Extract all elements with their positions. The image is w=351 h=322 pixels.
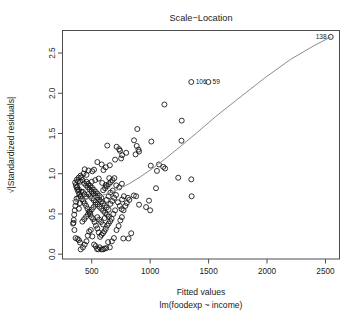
chart-canvas: Scale−Location 5001000150020002500 0.00.… (0, 0, 351, 322)
x-axis-ticks: 5001000150020002500 (85, 259, 335, 276)
data-point (162, 102, 167, 107)
data-point (113, 157, 118, 162)
data-point (84, 172, 89, 177)
y-tick-label: 1.5 (48, 127, 57, 139)
data-point (107, 245, 112, 250)
point-annotations-layer: 13810659 (196, 33, 327, 85)
data-point (135, 127, 140, 132)
data-point (179, 138, 184, 143)
x-tick-label: 1500 (199, 267, 218, 276)
x-tick-label: 500 (85, 267, 99, 276)
y-tick-label: 0.0 (48, 248, 57, 260)
data-point (144, 205, 149, 210)
scale-location-plot: Scale−Location 5001000150020002500 0.00.… (0, 0, 351, 322)
y-tick-label: 2.5 (48, 47, 57, 59)
y-axis-ticks: 0.00.51.01.52.02.5 (48, 47, 63, 260)
data-point (154, 168, 159, 173)
y-tick-label: 1.0 (48, 168, 57, 180)
data-point (119, 181, 124, 186)
y-axis-label: √|Standardized residuals| (6, 97, 16, 194)
chart-title: Scale−Location (169, 13, 232, 23)
data-point (137, 202, 142, 207)
data-point (72, 228, 77, 233)
point-label: 106 (196, 78, 207, 85)
point-label: 138 (316, 33, 327, 40)
data-point (132, 138, 137, 143)
data-point (126, 236, 131, 241)
data-point (133, 152, 138, 157)
data-points-layer (71, 34, 334, 251)
data-point (121, 236, 126, 241)
data-point (149, 139, 154, 144)
x-axis-sublabel: lm(foodexp ~ income) (160, 300, 243, 310)
x-axis-label: Fitted values (177, 287, 226, 297)
data-point (116, 224, 121, 229)
data-point (148, 163, 153, 168)
data-point (95, 160, 100, 165)
plot-frame (63, 31, 340, 260)
data-point (189, 177, 194, 182)
data-point (146, 198, 151, 203)
x-tick-label: 2000 (258, 267, 277, 276)
data-point (154, 186, 159, 191)
data-point (105, 143, 110, 148)
data-point (129, 231, 134, 236)
data-point (176, 175, 181, 180)
point-label: 59 (213, 78, 221, 85)
x-tick-label: 1000 (141, 267, 160, 276)
data-point (189, 79, 194, 84)
y-tick-label: 0.5 (48, 208, 57, 220)
data-point (189, 194, 194, 199)
x-tick-label: 2500 (316, 267, 335, 276)
data-point (179, 118, 184, 123)
data-point (119, 156, 124, 161)
y-tick-label: 2.0 (48, 87, 57, 99)
